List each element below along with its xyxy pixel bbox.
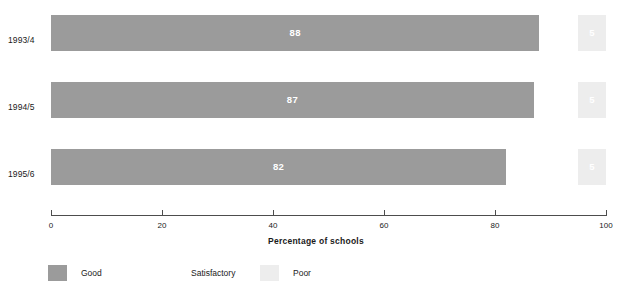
legend-label-good: Good (81, 269, 102, 278)
x-tick-mark (384, 210, 385, 216)
x-tick-mark (162, 210, 163, 216)
bar-value-good: 82 (273, 162, 284, 172)
bar-value-poor: 5 (589, 95, 595, 105)
legend-swatch-poor-icon (260, 265, 279, 281)
stacked-bar-chart: 1993/4 1994/5 1995/6 88 5 87 5 82 (0, 0, 632, 294)
legend-item-satisfactory[interactable]: Satisfactory (158, 262, 235, 284)
category-label-1993-4: 1993/4 (8, 36, 46, 45)
x-axis-line (51, 215, 606, 216)
bar-segment-poor[interactable]: 5 (578, 149, 606, 185)
x-tick-mark (273, 210, 274, 216)
x-tick-mark (495, 210, 496, 216)
bar-segment-satisfactory[interactable] (534, 82, 578, 118)
x-tick-mark (51, 210, 52, 216)
bar-segment-satisfactory[interactable] (506, 149, 578, 185)
legend-item-poor[interactable]: Poor (260, 262, 311, 284)
legend-swatch-good-icon (48, 265, 67, 281)
bar-value-good: 87 (287, 95, 298, 105)
bar-segment-satisfactory[interactable] (539, 15, 578, 51)
x-tick-label: 20 (158, 222, 167, 230)
legend-item-good[interactable]: Good (48, 262, 102, 284)
bar-segment-good[interactable]: 88 (51, 15, 539, 51)
category-label-1994-5: 1994/5 (8, 103, 46, 112)
x-tick-mark (606, 210, 607, 216)
legend-label-poor: Poor (293, 269, 311, 278)
x-axis-title: Percentage of schools (0, 237, 632, 246)
bar-segment-good[interactable]: 87 (51, 82, 534, 118)
x-tick-label: 40 (269, 222, 278, 230)
bar-segment-good[interactable]: 82 (51, 149, 506, 185)
x-tick-label: 100 (599, 222, 612, 230)
bar-value-poor: 5 (589, 162, 595, 172)
bar-value-poor: 5 (589, 28, 595, 38)
legend-swatch-satisfactory-icon (158, 265, 177, 281)
bar-value-good: 88 (290, 28, 301, 38)
x-tick-label: 80 (491, 222, 500, 230)
bar-segment-poor[interactable]: 5 (578, 82, 606, 118)
x-tick-label: 60 (380, 222, 389, 230)
x-tick-label: 0 (49, 222, 53, 230)
legend-label-satisfactory: Satisfactory (191, 269, 235, 278)
bar-segment-poor[interactable]: 5 (578, 15, 606, 51)
category-label-1995-6: 1995/6 (8, 170, 46, 179)
